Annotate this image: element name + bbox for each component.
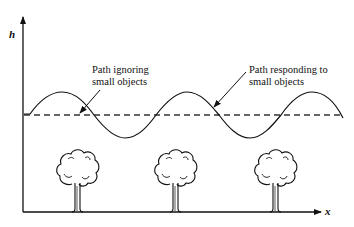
tree-icon bbox=[57, 150, 99, 212]
annotation-responding-arrow bbox=[214, 72, 246, 107]
annotation-ignoring-line2: small objects bbox=[92, 76, 147, 87]
tree-icon bbox=[255, 150, 297, 212]
annotation-responding-line1: Path responding to bbox=[249, 64, 328, 75]
annotation-ignoring-line1: Path ignoring bbox=[92, 64, 150, 75]
x-axis-label: x bbox=[324, 205, 331, 217]
path-diagram: h x Path ignoring small objects Path res… bbox=[0, 0, 354, 227]
tree-icon bbox=[155, 150, 197, 212]
y-axis-label: h bbox=[9, 28, 15, 40]
annotation-responding-line2: small objects bbox=[249, 76, 304, 87]
